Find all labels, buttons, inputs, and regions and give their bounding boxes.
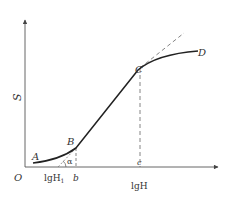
- point-label-c: C: [135, 64, 143, 75]
- s-lgh-diagram: S O A B C D α lgH1 b c lgH: [0, 0, 225, 198]
- tick-label-lgh1: lgH1: [44, 173, 64, 184]
- s-curve: [33, 51, 198, 163]
- alpha-label: α: [67, 157, 73, 166]
- point-label-a: A: [31, 151, 39, 162]
- alpha-arc: [63, 161, 66, 167]
- tick-label-lgh1-main: lgH: [44, 173, 61, 183]
- tick-label-lgh1-sub: 1: [61, 177, 65, 184]
- origin-label: O: [14, 172, 22, 183]
- point-label-d: D: [197, 47, 206, 58]
- tick-label-b: b: [73, 173, 79, 183]
- x-axis-label-text: lgH: [131, 181, 148, 191]
- x-axis-label: lgH: [131, 181, 148, 191]
- y-axis-label: S: [11, 93, 24, 101]
- tick-label-c: c: [137, 158, 142, 167]
- point-label-b: B: [66, 136, 74, 147]
- dashed-extension-c: [140, 33, 184, 68]
